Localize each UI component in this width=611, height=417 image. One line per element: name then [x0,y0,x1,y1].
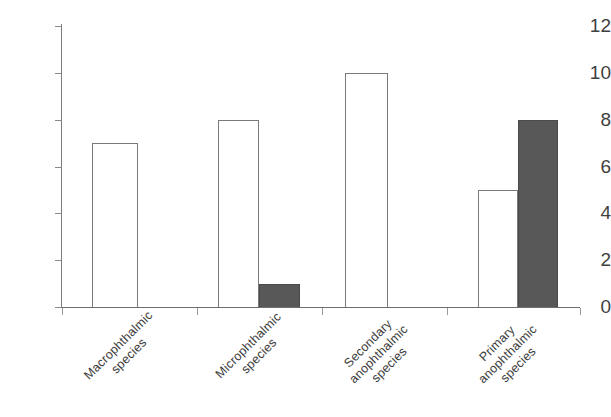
bar-open-1 [218,120,259,307]
x-category-label-1: Microphthalmic species [197,294,310,407]
x-tick-mark [322,308,323,315]
x-category-label-0: Macrophthalmic species [67,294,180,407]
bar-open-3 [345,73,388,307]
y-tick-mark [55,26,62,27]
y-tick-mark [55,167,62,168]
y-tick-mark [55,73,62,74]
y-tick-mark [55,260,62,261]
x-tick-mark [62,308,63,315]
x-tick-mark [580,308,581,315]
bar-chart: 024681012 Macrophthalmic speciesMicropht… [0,0,611,417]
x-tick-mark [197,308,198,315]
x-category-label-2: Secondary anophthalmic species [317,293,441,417]
y-tick-mark [55,307,62,308]
plot-area [62,26,580,307]
x-tick-mark [447,308,448,315]
x-axis-line [61,307,580,308]
x-category-label-3: Primary anophthalmic species [446,293,570,417]
bar-open-0 [92,143,138,307]
y-tick-mark [55,213,62,214]
y-tick-mark [55,120,62,121]
bar-filled-5 [518,120,558,307]
bar-open-4 [478,190,518,307]
